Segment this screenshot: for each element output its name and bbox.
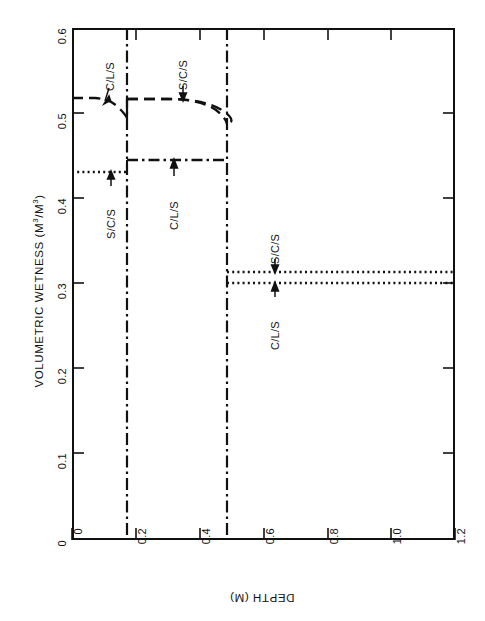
annotation-label-scs-lower-left: S/C/S	[105, 195, 117, 239]
y-axis-title-mid: /M	[33, 204, 45, 218]
y-axis-title-post: )	[33, 194, 45, 198]
y-axis-title-sup2: 3	[31, 199, 40, 204]
y-axis-title: VOLUMETRIC WETNESS (M3/M3)	[31, 191, 45, 391]
x-axis-title: DEPTH (M)	[192, 592, 332, 604]
curve-upper-left-cls	[72, 98, 127, 118]
x-axis-ticks-top	[136, 28, 391, 40]
arrow-cls-right-lower	[272, 282, 279, 297]
figure-root: 0 0.1 0.2 0.3 0.4 0.5 0.6 0 0.2 0.4 0.6 …	[0, 0, 485, 621]
annotation-label-cls-right-lower: C/L/S	[269, 306, 281, 350]
x-tick-label-6: 1.2	[455, 528, 467, 568]
annotation-label-cls-lower-middle: C/L/S	[168, 186, 180, 230]
annotation-label-scs-right-upper: S/C/S	[269, 220, 281, 264]
y-tick-label-4: 0.4	[56, 198, 68, 238]
y-axis-ticks-right	[443, 113, 455, 453]
y-axis-title-sup1: 3	[31, 218, 40, 223]
y-tick-label-5: 0.5	[56, 113, 68, 153]
annotation-arrows	[104, 86, 278, 297]
curve-upper-middle-scs-tail	[127, 99, 227, 124]
y-tick-label-1: 0.1	[56, 453, 68, 493]
y-tick-label-2: 0.2	[56, 368, 68, 408]
annotation-label-cls-upper-left: C/L/S	[104, 47, 116, 91]
x-tick-label-0: 0	[72, 528, 84, 568]
y-tick-label-3: 0.3	[56, 283, 68, 323]
y-axis-title-pre: VOLUMETRIC WETNESS (M	[33, 223, 45, 388]
arrow-cls-lower-middle	[171, 159, 178, 176]
x-tick-label-4: 0.8	[328, 528, 340, 568]
y-tick-label-6: 0.6	[56, 28, 68, 68]
x-tick-label-3: 0.6	[264, 528, 276, 568]
x-tick-label-1: 0.2	[136, 528, 148, 568]
y-axis-ticks	[72, 113, 84, 453]
x-tick-label-5: 1.0	[391, 528, 403, 568]
x-tick-label-2: 0.4	[200, 528, 212, 568]
annotation-label-scs-upper-middle: S/C/S	[177, 46, 189, 90]
y-tick-label-0: 0	[56, 540, 68, 580]
curve-upper-middle-scs	[127, 99, 231, 124]
